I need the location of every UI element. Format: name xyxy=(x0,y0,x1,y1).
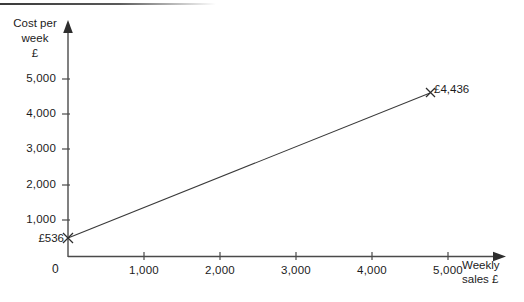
y-axis-title-line-3: £ xyxy=(4,46,66,61)
x-tick-label-3000: 3,000 xyxy=(266,264,326,276)
y-tick-label-5000: 5,000 xyxy=(10,72,56,84)
endpoint-value-label: £4,436 xyxy=(434,83,469,95)
cost-line-series xyxy=(68,93,430,238)
intercept-value-label: £536 xyxy=(22,232,64,244)
y-axis-title-line-1: Cost per xyxy=(4,16,66,31)
y-axis-ticks xyxy=(62,79,70,220)
y-tick-label-3000: 3,000 xyxy=(10,142,56,154)
y-tick-label-2000: 2,000 xyxy=(10,178,56,190)
y-axis-title: Cost per week £ xyxy=(4,16,66,61)
line-chart-plot xyxy=(0,0,524,302)
x-tick-label-2000: 2,000 xyxy=(190,264,250,276)
y-axis-title-line-2: week xyxy=(4,31,66,46)
chart-page: Cost per week £ Weekly sales £ 0 5,000 4… xyxy=(0,0,524,302)
y-tick-label-4000: 4,000 xyxy=(10,107,56,119)
x-axis xyxy=(68,252,506,261)
origin-label: 0 xyxy=(52,262,59,276)
x-tick-label-5000: 5,000 xyxy=(418,264,478,276)
x-tick-label-1000: 1,000 xyxy=(114,264,174,276)
y-tick-label-1000: 1,000 xyxy=(10,213,56,225)
x-tick-label-4000: 4,000 xyxy=(342,264,402,276)
